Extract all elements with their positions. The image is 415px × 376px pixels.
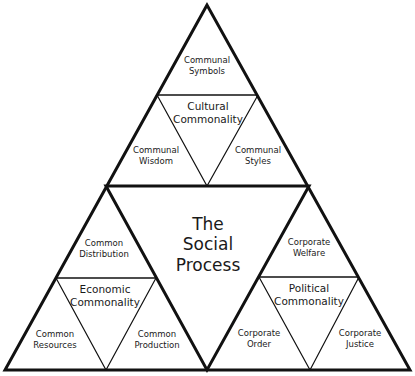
top-apex-label: CommunalSymbols — [184, 55, 230, 76]
right-left-label: CorporateOrder — [238, 328, 281, 349]
right-right-label: CorporateJustice — [339, 328, 382, 349]
center-line-1: The — [176, 214, 241, 234]
right-core-label: PoliticalCommonality — [274, 282, 344, 307]
left-left-label: CommonResources — [33, 329, 76, 350]
left-right-label: CommonProduction — [134, 329, 179, 350]
top-right-label: CommunalStyles — [235, 145, 281, 166]
center-line-2: Social — [176, 234, 241, 254]
center-line-3: Process — [176, 255, 241, 275]
top-core-label: CulturalCommonality — [173, 100, 243, 125]
top-left-label: CommunalWisdom — [133, 145, 179, 166]
left-apex-label: CommonDistribution — [79, 238, 129, 259]
left-core-label: EconomicCommonality — [70, 283, 140, 308]
center-label: The Social Process — [176, 214, 241, 275]
right-apex-label: CorporateWelfare — [288, 237, 331, 258]
